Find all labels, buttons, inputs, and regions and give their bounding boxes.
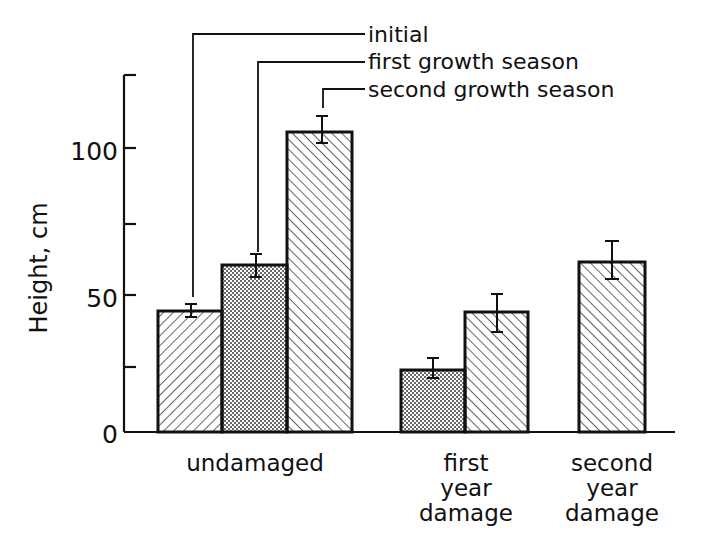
bar-group-first-year-damage	[401, 294, 528, 432]
tick-label-50: 50	[86, 284, 118, 313]
bar-second-year-second-growth	[579, 262, 645, 432]
tick-label-0: 0	[102, 420, 118, 449]
category-first-line1: first	[444, 450, 489, 476]
category-labels: undamaged first year damage second year …	[186, 450, 659, 526]
category-second-line2: year	[586, 475, 638, 501]
bar-undamaged-second-growth	[287, 132, 352, 432]
y-axis: 100 50 0 Height, cm	[25, 75, 136, 449]
bar-undamaged-initial	[158, 311, 222, 432]
legend-first-growth-season: first growth season	[368, 49, 579, 74]
category-second-line1: second	[571, 450, 653, 476]
bar-first-year-first-growth	[401, 370, 465, 432]
category-second-line3: damage	[565, 500, 659, 526]
bar-chart: 100 50 0 Height, cm	[0, 0, 705, 544]
category-first-line2: year	[440, 475, 492, 501]
category-first-line3: damage	[419, 500, 513, 526]
y-axis-label: Height, cm	[25, 202, 53, 333]
tick-label-100: 100	[70, 137, 118, 166]
bar-undamaged-first-growth	[222, 265, 287, 432]
legend: initial first growth season second growt…	[368, 22, 614, 102]
bar-group-second-year-damage	[579, 241, 645, 432]
legend-second-growth-season: second growth season	[368, 77, 614, 102]
category-undamaged: undamaged	[186, 450, 324, 476]
legend-initial: initial	[368, 22, 429, 47]
bar-group-undamaged	[158, 116, 352, 432]
